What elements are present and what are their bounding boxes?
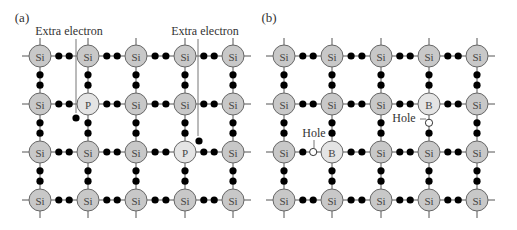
electron-dot [162, 196, 169, 203]
electron-dot [162, 148, 169, 155]
svg-text:Si: Si [131, 99, 140, 111]
electron-dot [348, 196, 355, 203]
svg-text:Si: Si [228, 51, 237, 63]
electron-dot [280, 178, 287, 185]
electron-dot [229, 178, 236, 185]
panel-b-p-type-lattice: (b)SiSiSiSiSiSiSiSiBSiSiBSiSiSiSiSiSiSiS… [261, 10, 495, 218]
electron-dot [152, 52, 159, 59]
electron-dot [396, 148, 403, 155]
electron-dot [425, 178, 432, 185]
electron-dot [132, 178, 139, 185]
electron-dot [348, 52, 355, 59]
electron-dot [473, 82, 480, 89]
electron-dot [377, 130, 384, 137]
atom-p: P [174, 141, 196, 163]
atom-si: Si [77, 141, 99, 163]
svg-text:P: P [182, 147, 188, 159]
electron-dot [455, 148, 462, 155]
electron-dot [310, 196, 317, 203]
atom-si: Si [466, 189, 488, 211]
electron-dot [132, 119, 139, 126]
electron-dot [280, 119, 287, 126]
electron-dot [299, 196, 306, 203]
electron-dot [396, 52, 403, 59]
electron-dot [407, 148, 414, 155]
electron-dot [328, 119, 335, 126]
svg-text:Si: Si [327, 99, 336, 111]
electron-dot [66, 196, 73, 203]
electron-dot [55, 196, 62, 203]
electron-dot [444, 52, 451, 59]
electron-dot [103, 100, 110, 107]
svg-text:Si: Si [424, 147, 433, 159]
electron-dot [407, 52, 414, 59]
electron-dot [425, 167, 432, 174]
atom-si: Si [466, 141, 488, 163]
hole-icon [310, 148, 317, 155]
electron-dot [36, 178, 43, 185]
electron-dot [103, 52, 110, 59]
electron-dot [181, 178, 188, 185]
electron-dot [280, 130, 287, 137]
panel-label: (a) [15, 10, 29, 25]
electron-dot [55, 52, 62, 59]
electron-dot [152, 100, 159, 107]
atom-si: Si [222, 93, 244, 115]
svg-text:Si: Si [180, 51, 189, 63]
electron-dot [84, 130, 91, 137]
electron-dot [181, 82, 188, 89]
electron-dot [181, 130, 188, 137]
svg-text:Si: Si [279, 195, 288, 207]
electron-dot [36, 119, 43, 126]
electron-dot [211, 148, 218, 155]
atom-p: P [77, 93, 99, 115]
atom-si: Si [77, 189, 99, 211]
atom-si: Si [273, 45, 295, 67]
svg-text:Si: Si [35, 147, 44, 159]
electron-dot [358, 148, 365, 155]
atom-si: Si [125, 45, 147, 67]
electron-dot [229, 130, 236, 137]
electron-dot [407, 196, 414, 203]
electron-dot [444, 196, 451, 203]
svg-text:Si: Si [131, 51, 140, 63]
electron-dot [162, 100, 169, 107]
panel-label: (b) [261, 10, 276, 25]
electron-dot [84, 71, 91, 78]
svg-text:Si: Si [472, 99, 481, 111]
svg-text:Si: Si [376, 147, 385, 159]
atom-si: Si [321, 189, 343, 211]
electron-dot [473, 119, 480, 126]
svg-text:Si: Si [279, 99, 288, 111]
atom-si: Si [29, 189, 51, 211]
electron-dot [211, 100, 218, 107]
electron-dot [377, 178, 384, 185]
atom-si: Si [370, 45, 392, 67]
electron-dot [377, 119, 384, 126]
electron-dot [152, 148, 159, 155]
svg-text:B: B [328, 147, 335, 159]
svg-text:Si: Si [376, 195, 385, 207]
electron-dot [310, 100, 317, 107]
electron-dot [377, 82, 384, 89]
atom-si: Si [125, 141, 147, 163]
svg-text:Si: Si [327, 195, 336, 207]
svg-text:Si: Si [35, 99, 44, 111]
atom-si: Si [77, 45, 99, 67]
extra-electron-label: Extra electron [35, 24, 103, 38]
electron-dot [310, 52, 317, 59]
extra-electron-label: Extra electron [171, 24, 239, 38]
electron-dot [444, 100, 451, 107]
electron-dot [181, 167, 188, 174]
electron-dot [66, 148, 73, 155]
electron-dot [358, 100, 365, 107]
atom-si: Si [174, 189, 196, 211]
electron-dot [299, 100, 306, 107]
semiconductor-doping-diagram: (a)SiSiSiSiSiSiPSiSiSiSiSiSiPSiSiSiSiSiS… [0, 0, 517, 230]
electron-dot [328, 167, 335, 174]
electron-dot [377, 71, 384, 78]
electron-dot [455, 196, 462, 203]
atom-si: Si [321, 93, 343, 115]
svg-text:P: P [85, 99, 91, 111]
electron-dot [132, 130, 139, 137]
